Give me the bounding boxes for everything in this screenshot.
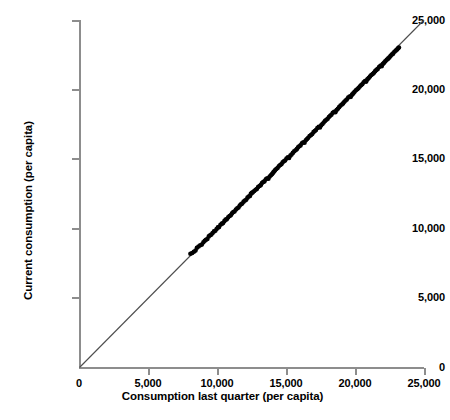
scatter-points-group (188, 45, 401, 256)
scatter-point (397, 45, 402, 50)
